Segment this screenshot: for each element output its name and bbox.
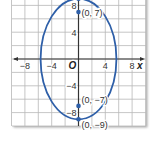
origin-label: O [69,60,77,71]
ellipse-graph: −8−44884−4−8Ox (0, 7)(0, −7)(0, −9) [0,0,154,159]
x-tick-label: −8 [20,61,30,71]
point-label: (0, 7) [82,8,103,18]
x-tick-label: 8 [130,61,135,71]
point-marker [76,117,81,122]
point-label: (0, −7) [82,95,108,105]
x-tick-label: 4 [103,61,108,71]
x-axis-label: x [136,60,143,71]
y-tick-label: 8 [71,1,76,11]
point-label: (0, −9) [82,120,108,130]
y-tick-label: −4 [66,81,76,91]
y-tick-label: 4 [71,28,76,38]
point-marker [76,104,81,109]
x-tick-label: −4 [47,61,57,71]
point-marker [76,10,81,15]
